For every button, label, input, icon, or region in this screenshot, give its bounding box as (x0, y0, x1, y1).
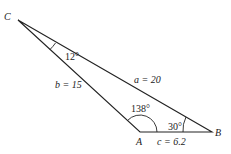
vertex-a-label: A (136, 137, 142, 147)
angle-arc-b (183, 117, 186, 132)
vertex-c-label: C (4, 12, 11, 22)
angle-arc-c (50, 43, 56, 50)
side-a-label: a = 20 (134, 75, 161, 85)
vertex-b-label: B (215, 128, 221, 138)
angle-a-label: 138° (131, 104, 150, 114)
triangle-figure (0, 0, 231, 154)
side-c-label: c = 6.2 (157, 137, 186, 147)
triangle-diagram: C A B 12° 138° 30° a = 20 b = 15 c = 6.2 (0, 0, 231, 154)
angle-c-label: 12° (65, 52, 79, 62)
triangle-abc (18, 20, 212, 132)
side-b-label: b = 15 (55, 80, 82, 90)
angle-arc-a (128, 115, 158, 132)
angle-b-label: 30° (168, 122, 182, 132)
